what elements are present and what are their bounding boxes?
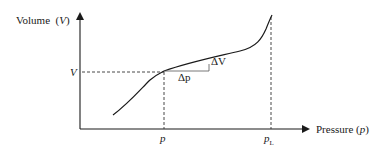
x-axis-title: Pressure (p): [316, 124, 369, 135]
pl-value-label: pL: [264, 133, 274, 147]
delta-v-label: ΔV: [211, 56, 226, 67]
delta-p-label: Δp: [178, 72, 191, 83]
p-value-label: p: [160, 133, 166, 144]
y-axis-title: Volume (V): [16, 15, 70, 26]
pv-curve: [113, 15, 272, 115]
v-value-label: V: [70, 67, 77, 78]
slope-triangle: [164, 64, 209, 71]
